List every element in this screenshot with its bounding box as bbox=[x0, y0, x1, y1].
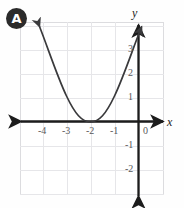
y-tick-label: -1 bbox=[125, 140, 133, 150]
y-tick-label: 2 bbox=[128, 68, 133, 78]
x-axis-label: x bbox=[167, 116, 172, 128]
y-tick-label: -2 bbox=[125, 164, 133, 174]
y-axis-label: y bbox=[132, 7, 137, 19]
plot-area bbox=[20, 22, 164, 195]
problem-badge: A bbox=[6, 8, 27, 29]
x-tick-label: -1 bbox=[110, 126, 118, 136]
figure-root: A bbox=[0, 0, 184, 208]
x-tick-label: -2 bbox=[86, 126, 94, 136]
x-tick-label: 0 bbox=[143, 126, 148, 136]
y-tick-label: 1 bbox=[128, 92, 133, 102]
x-tick-label: -4 bbox=[38, 126, 46, 136]
grid-svg bbox=[20, 22, 164, 195]
x-tick-label: -3 bbox=[62, 126, 70, 136]
y-tick-label: 3 bbox=[128, 44, 133, 54]
